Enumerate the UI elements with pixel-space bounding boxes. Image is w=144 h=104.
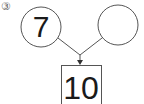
arrow-down-icon	[77, 60, 83, 65]
total-box-value: 10	[61, 72, 101, 104]
left-circle-value: 7	[21, 12, 61, 42]
right-circle-blank[interactable]	[98, 5, 138, 45]
connector-left	[58, 38, 80, 55]
connector-right	[80, 38, 102, 55]
